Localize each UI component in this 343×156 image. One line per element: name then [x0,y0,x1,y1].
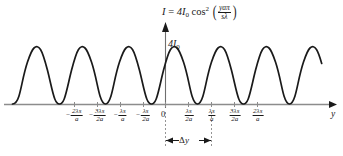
tick-denominator: a [208,115,216,124]
intensity-equation: I = 4I0 cos2 (yaπsλ) [162,4,237,21]
tick-denominator: a [252,115,263,124]
delta-variable: y [185,135,189,145]
equation-arg-numerator: yaπ [218,4,232,12]
tick-sign: − [136,112,140,119]
equation-equals: = [168,6,174,17]
intensity-curve [13,47,322,104]
tick-numerator: λs [208,108,216,116]
tick-fraction: 2λsa [252,108,263,124]
peak-amplitude-subscript: 0 [176,43,180,51]
equation-arg-denominator: sλ [218,12,232,21]
tick-denominator: 2a [184,115,193,124]
equation-exponent: 2 [206,5,210,13]
tick-label: λsa [207,108,216,124]
tick-fraction: 2λsa [71,108,82,124]
tick-denominator: a [71,115,82,124]
tick-fraction: λs2a [184,108,193,124]
tick-label: −λsa [114,108,127,124]
equation-amplitude-subscript: 0 [185,11,189,19]
tick-fraction: λs2a [141,108,150,124]
peak-amplitude-label: 4I0 [168,39,180,49]
delta-y-left-arrowhead [166,138,173,144]
tick-label: 3λs2a [228,108,241,124]
tick-denominator: 2a [229,115,240,124]
tick-fraction: 3λs2a [94,108,105,124]
tick-label: −λs2a [136,108,150,124]
delta-y-right-arrowhead [204,138,211,144]
equation-left-paren: ( [212,4,216,20]
tick-numerator: 3λs [229,108,240,116]
tick-label: 2λsa [251,108,264,124]
tick-denominator: 2a [94,115,105,124]
tick-numerator: 2λs [252,108,263,116]
tick-numerator: λs [141,108,150,116]
tick-sign: − [89,112,93,119]
tick-numerator: 2λs [71,108,82,116]
tick-denominator: a [119,115,127,124]
equation-argument-fraction: yaπsλ [218,4,232,21]
tick-label: −3λs2a [89,108,106,124]
x-axis-arrowhead [329,101,337,108]
tick-numerator: λs [119,108,127,116]
tick-sign: − [66,112,70,119]
interference-intensity-figure: I = 4I0 cos2 (yaπsλ) 4I0 0 y −2λsa −3λs2… [0,0,343,156]
tick-label: −2λsa [66,108,83,124]
equation-right-paren: ) [233,4,237,20]
tick-denominator: 2a [141,115,150,124]
equation-lhs: I [162,6,166,17]
x-axis-label: y [331,110,335,120]
origin-label: 0 [161,110,165,119]
tick-label: λs2a [183,108,194,124]
tick-fraction: λsa [208,108,216,124]
tick-numerator: λs [184,108,193,116]
y-axis-arrowhead [162,22,169,32]
tick-fraction: 3λs2a [229,108,240,124]
delta-y-label: Δy [179,136,189,145]
tick-sign: − [114,112,118,119]
tick-fraction: λsa [119,108,127,124]
equation-function: cos [192,6,206,17]
plot-canvas [0,0,343,156]
tick-numerator: 3λs [94,108,105,116]
